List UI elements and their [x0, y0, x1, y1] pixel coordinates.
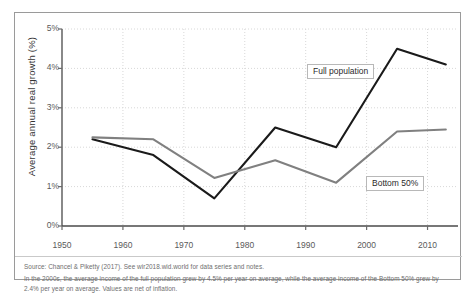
x-tick-label: 2010	[408, 240, 448, 250]
annotation-full-population: Full population	[307, 64, 374, 79]
source-note: Source: Chancel & Piketty (2017). See wi…	[24, 262, 453, 272]
x-tick-label: 1980	[225, 240, 265, 250]
line-chart-svg	[15, 13, 462, 239]
figure-container: Average annual real growth (%) 0%1%2%3%4…	[14, 12, 461, 280]
axis-tick-marks	[58, 29, 428, 230]
series-line-bottom-50	[92, 129, 445, 182]
x-axis-tick-labels: 1950196019701980199020002010	[15, 240, 462, 256]
x-tick-label: 2000	[347, 240, 387, 250]
figure-notes: Source: Chancel & Piketty (2017). See wi…	[15, 256, 462, 280]
chart-plot-area: Average annual real growth (%) 0%1%2%3%4…	[15, 13, 462, 239]
x-tick-label: 1960	[103, 240, 143, 250]
x-tick-label: 1970	[164, 240, 204, 250]
x-tick-label: 1950	[42, 240, 82, 250]
annotation-bottom-50: Bottom 50%	[366, 176, 424, 191]
gridlines	[62, 29, 458, 226]
axis-lines	[62, 29, 458, 226]
detail-note: In the 2000s, the average income of the …	[24, 274, 453, 294]
x-tick-label: 1990	[286, 240, 326, 250]
